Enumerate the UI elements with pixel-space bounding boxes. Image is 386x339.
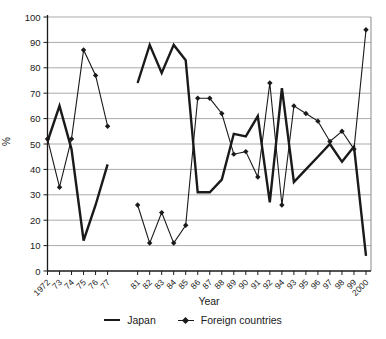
chart-canvas: 0102030405060708090100197273747576778182… [0,0,386,339]
y-tick-label: 60 [30,113,41,124]
foreign-data-marker [93,73,98,78]
chart-page: 0102030405060708090100197273747576778182… [0,0,386,339]
foreign-data-marker [159,210,164,215]
y-tick-label: 100 [25,12,41,23]
y-axis-title: % [1,137,12,146]
foreign-data-marker [81,47,86,52]
foreign-data-marker [363,27,368,32]
foreign-data-marker [147,240,152,245]
foreign-data-marker [291,103,296,108]
foreign-line-swatch-icon [178,317,194,324]
foreign-data-marker [315,118,320,123]
y-tick-label: 90 [30,37,41,48]
y-tick-label: 10 [30,240,41,251]
foreign-data-marker [303,111,308,116]
foreign-data-marker [135,202,140,207]
foreign-data-marker [255,174,260,179]
y-tick-label: 20 [30,215,41,226]
y-tick-label: 80 [30,62,41,73]
foreign-data-marker [105,124,110,129]
foreign-data-marker [243,149,248,154]
foreign-data-marker [57,184,62,189]
legend-label-foreign: Foreign countries [201,314,282,326]
y-tick-label: 40 [30,164,41,175]
y-tick-label: 0 [35,266,40,277]
foreign-data-marker [231,151,236,156]
foreign-data-marker [279,202,284,207]
legend-label-japan: Japan [127,314,156,326]
legend-item-japan: Japan [104,314,156,326]
japan-line [138,45,366,256]
foreign-data-marker [267,80,272,85]
legend: Japan Foreign countries [0,314,386,326]
x-tick-label: 77 [98,277,112,291]
x-axis-title: Year [47,295,371,307]
y-tick-label: 70 [30,88,41,99]
foreign-data-marker [195,96,200,101]
y-tick-label: 50 [30,139,41,150]
y-tick-label: 30 [30,189,41,200]
japan-line-swatch-icon [104,319,120,321]
foreign-line [138,30,366,243]
legend-item-foreign: Foreign countries [178,314,282,326]
